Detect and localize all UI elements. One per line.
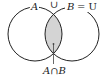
intersection-pointer-dot	[53, 43, 55, 45]
label-b: B	[66, 1, 74, 12]
union-symbol: ∪	[50, 0, 58, 10]
intersection-label: A∩B	[42, 65, 66, 76]
label-a: A	[30, 1, 38, 12]
venn-diagram: A ∪ B = U A∩B	[0, 0, 104, 80]
equals-u-label: = U	[77, 1, 97, 12]
